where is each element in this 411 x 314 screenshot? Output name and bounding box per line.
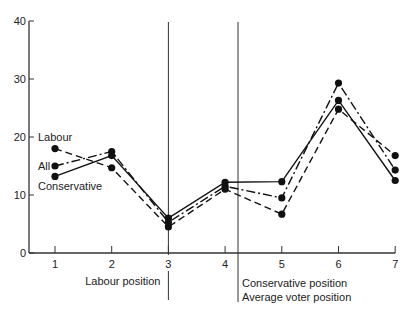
labour-position-label: Labour position bbox=[85, 275, 160, 287]
x-tick-label: 7 bbox=[392, 258, 398, 270]
data-point bbox=[108, 152, 115, 159]
data-point bbox=[278, 211, 285, 218]
series-line-conservative bbox=[55, 100, 395, 218]
series-label-labour: Labour bbox=[38, 131, 73, 143]
x-tick-label: 4 bbox=[222, 258, 228, 270]
x-tick-label: 1 bbox=[52, 258, 58, 270]
data-point bbox=[222, 179, 229, 186]
data-point bbox=[278, 178, 285, 185]
y-tick-label: 0 bbox=[20, 247, 26, 259]
data-point bbox=[335, 79, 342, 86]
series-label-conservative: Conservative bbox=[38, 180, 102, 192]
data-point bbox=[335, 106, 342, 113]
line-chart: 0102030401234567Labour positionConservat… bbox=[0, 0, 411, 314]
data-point bbox=[165, 215, 172, 222]
series-line-labour bbox=[55, 109, 395, 227]
x-tick-label: 3 bbox=[165, 258, 171, 270]
data-point bbox=[51, 145, 58, 152]
data-point bbox=[108, 164, 115, 171]
conservative-position-label: Conservative position bbox=[242, 277, 347, 289]
series-label-all: All bbox=[38, 160, 50, 172]
data-point bbox=[51, 173, 58, 180]
series-line-all bbox=[55, 83, 395, 222]
data-point bbox=[392, 177, 399, 184]
x-tick-label: 5 bbox=[279, 258, 285, 270]
average-voter-position-label: Average voter position bbox=[242, 291, 351, 303]
data-point bbox=[278, 194, 285, 201]
y-tick-label: 30 bbox=[14, 73, 26, 85]
data-point bbox=[392, 152, 399, 159]
y-tick-label: 40 bbox=[14, 15, 26, 27]
y-tick-label: 20 bbox=[14, 131, 26, 143]
data-point bbox=[51, 162, 58, 169]
data-point bbox=[335, 97, 342, 104]
y-tick-label: 10 bbox=[14, 189, 26, 201]
x-tick-label: 2 bbox=[109, 258, 115, 270]
x-tick-label: 6 bbox=[335, 258, 341, 270]
data-point bbox=[392, 166, 399, 173]
